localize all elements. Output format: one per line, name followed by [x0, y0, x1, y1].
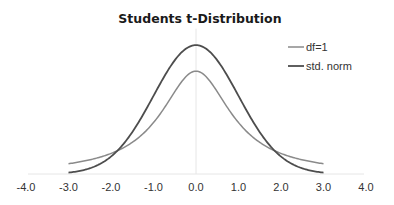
legend-label: df=1	[306, 41, 328, 53]
x-tick-label: 0.0	[188, 181, 203, 193]
x-tick-label: 2.0	[273, 181, 288, 193]
x-tick-label: -1.0	[144, 181, 163, 193]
chart-title: Students t-Distribution	[118, 11, 281, 26]
x-tick-label: -4.0	[17, 181, 36, 193]
x-tick-label: 3.0	[316, 181, 331, 193]
legend-label: std. norm	[306, 60, 352, 72]
x-tick-label: -3.0	[59, 181, 78, 193]
x-tick-labels: -4.0-3.0-2.0-1.00.01.02.03.04.0	[17, 181, 374, 193]
x-tick-label: -2.0	[102, 181, 121, 193]
x-tick-label: 4.0	[358, 181, 373, 193]
legend: df=1std. norm	[288, 41, 352, 72]
x-tick-label: 1.0	[231, 181, 246, 193]
chart: Students t-Distribution -4.0-3.0-2.0-1.0…	[0, 0, 394, 205]
